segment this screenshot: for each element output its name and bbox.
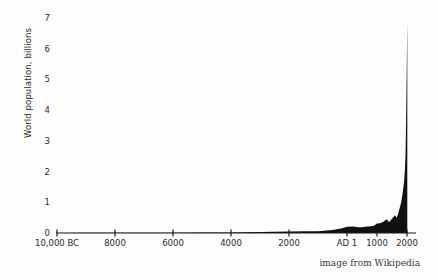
source-credit: image from Wikipedia [319,258,420,268]
x-tick-8000: 8000 [104,239,126,248]
y-tick-3: 3 [32,137,50,146]
chart-figure: World population, billions 01234567 10,0… [0,0,438,280]
plot-area [56,14,416,237]
x-tick-1000: 1000 [366,239,388,248]
x-tick-6000: 6000 [162,239,184,248]
y-tick-1: 1 [32,198,50,207]
y-tick-5: 5 [32,75,50,84]
y-tick-0: 0 [32,229,50,238]
x-tick-ad-1: AD 1 [337,239,357,248]
population-area-path [57,21,407,233]
x-tick-2000: 2000 [396,239,418,248]
y-tick-2: 2 [32,168,50,177]
x-axis-tick-labels: 10,000 BC8000600040002000AD 110002000 [0,239,438,253]
x-tick-10-000-bc: 10,000 BC [35,239,79,248]
x-tick-4000: 4000 [220,239,242,248]
y-tick-7: 7 [32,14,50,23]
population-area-chart [56,14,416,237]
y-tick-6: 6 [32,45,50,54]
y-tick-4: 4 [32,106,50,115]
x-tick-2000: 2000 [278,239,300,248]
